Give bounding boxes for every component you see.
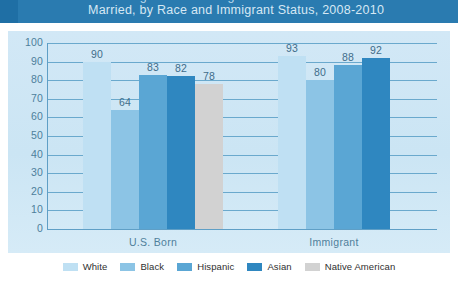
group-label-u-s-born: U.S. Born [53,236,253,248]
y-tick-label: 80 [9,73,43,85]
legend-item-white[interactable]: White [63,261,108,272]
x-axis-line [47,229,437,230]
bar-hispanic-immigrant [334,65,362,229]
bar-asian-u-s-born [167,76,195,229]
bar-value-label: 78 [189,70,229,82]
legend-label: Native American [325,261,396,272]
bar-black-u-s-born [111,110,139,229]
chart-figure: Percentage of Women Ages 18-44 Who Are M… [0,0,458,299]
bar-asian-immigrant [362,58,390,229]
footer-strip [0,280,458,299]
bar-value-label: 92 [356,44,396,56]
header-band: Percentage of Women Ages 18-44 Who Are M… [0,0,458,23]
chart-legend: WhiteBlackHispanicAsianNative American [8,253,450,280]
legend-label: Hispanic [197,261,234,272]
legend-swatch-icon [120,263,135,271]
y-tick-label: 90 [9,55,43,67]
legend-swatch-icon [305,263,320,271]
y-tick-label: 0 [9,222,43,234]
legend-item-black[interactable]: Black [120,261,164,272]
bar-native-american-u-s-born [195,84,223,229]
legend-label: Asian [267,261,291,272]
legend-swatch-icon [177,263,192,271]
legend-swatch-icon [63,263,78,271]
y-tick-label: 20 [9,185,43,197]
y-tick-label: 100 [9,36,43,48]
y-tick-label: 30 [9,166,43,178]
chart-panel: 1009080706050403020100 90648382789380889… [8,31,450,253]
y-tick-label: 10 [9,203,43,215]
bar-value-label: 93 [272,42,312,54]
header-tab-accent [0,0,18,23]
bar-black-immigrant [306,80,334,229]
legend-item-native-american[interactable]: Native American [305,261,396,272]
y-tick-label: 50 [9,129,43,141]
bar-white-immigrant [278,56,306,229]
bar-value-label: 80 [300,66,340,78]
y-axis-line [47,43,48,230]
group-label-immigrant: Immigrant [248,236,420,248]
legend-label: Black [140,261,164,272]
y-tick-label: 70 [9,92,43,104]
bar-value-label: 90 [77,48,117,60]
legend-item-asian[interactable]: Asian [247,261,291,272]
legend-item-hispanic[interactable]: Hispanic [177,261,234,272]
legend-swatch-icon [247,263,262,271]
y-tick-label: 60 [9,110,43,122]
bar-value-label: 64 [105,96,145,108]
y-tick-label: 40 [9,148,43,160]
bar-white-u-s-born [83,62,111,229]
chart-subtitle: Married, by Race and Immigrant Status, 2… [88,3,384,17]
legend-label: White [83,261,108,272]
